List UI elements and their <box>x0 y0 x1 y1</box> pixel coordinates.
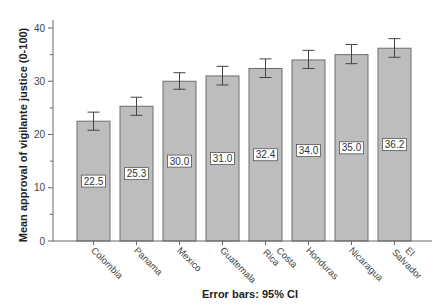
bar-panama: 25.3 <box>120 97 153 241</box>
value-label: 31.0 <box>213 153 233 164</box>
x-tick-label: Honduras <box>304 245 341 282</box>
y-tick-label: 10 <box>34 182 46 193</box>
x-tick-label: Colombia <box>89 245 126 282</box>
bar-mexico: 30.0 <box>163 73 196 241</box>
value-label: 30.0 <box>170 156 190 167</box>
x-tick-label: Guatemala <box>218 245 259 286</box>
bar-colombia: 22.5 <box>77 112 110 241</box>
value-label: 34.0 <box>299 145 319 156</box>
y-axis: 010203040 <box>34 20 53 247</box>
x-tick-label: ElSalvador <box>390 239 432 281</box>
error-bars-footnote: Error bars: 95% CI <box>202 288 298 300</box>
value-label: 36.2 <box>385 139 405 150</box>
x-axis: ColombiaPanamaMexicoGuatemalaCostaRicaHo… <box>53 239 432 286</box>
bar-costa-rica: 32.4 <box>249 59 282 241</box>
x-tick-label: Mexico <box>175 245 204 274</box>
y-tick-label: 30 <box>34 76 46 87</box>
bar-nicaragua: 35.0 <box>335 45 368 241</box>
x-tick-label: CostaRica <box>261 239 300 278</box>
bar-honduras: 34.0 <box>292 50 325 241</box>
bar-guatemala: 31.0 <box>206 66 239 241</box>
x-tick-label: Panama <box>132 245 165 278</box>
y-tick-label: 20 <box>34 129 46 140</box>
value-label: 22.5 <box>84 176 104 187</box>
bar-chart: 010203040 22.525.330.031.032.434.035.036… <box>0 0 445 304</box>
value-label: 32.4 <box>256 149 276 160</box>
value-label: 25.3 <box>127 168 147 179</box>
y-axis-label: Mean approval of vigilante justice (0-10… <box>17 27 29 242</box>
x-tick-label: Nicaragua <box>347 245 386 284</box>
y-tick-label: 0 <box>39 236 45 247</box>
y-tick-label: 40 <box>34 23 46 34</box>
bars-group: 22.525.330.031.032.434.035.036.2 <box>77 39 411 241</box>
value-label: 35.0 <box>342 142 362 153</box>
bar-el-salvador: 36.2 <box>378 39 411 241</box>
